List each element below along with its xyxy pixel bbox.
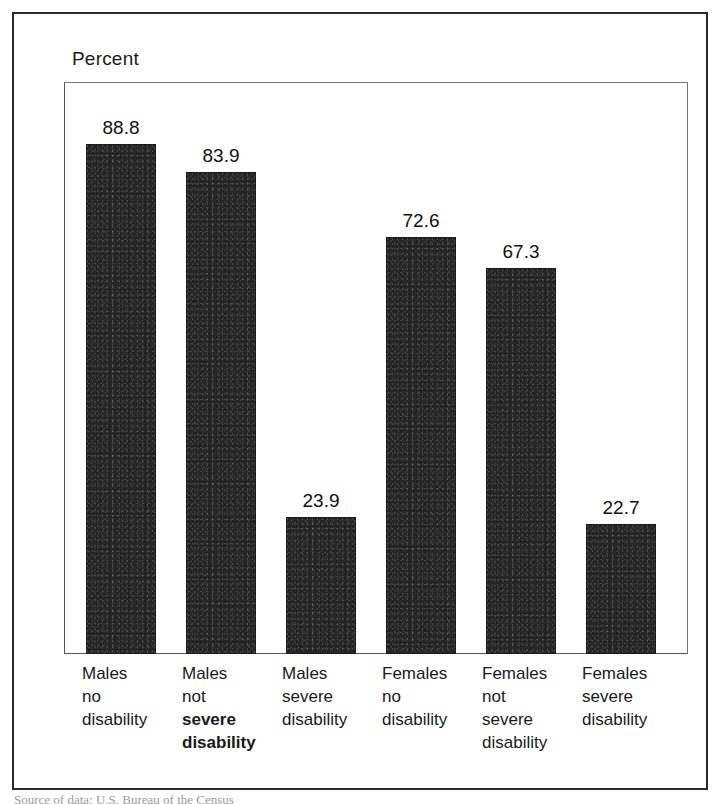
category-line: Males: [82, 662, 186, 685]
bar-rect[interactable]: [486, 268, 556, 654]
category-line: severe: [182, 708, 286, 731]
bar-group-males-no-disability[interactable]: 88.8: [86, 118, 156, 654]
category-line: disability: [582, 708, 686, 731]
category-line: Males: [182, 662, 286, 685]
category-line: Females: [582, 662, 686, 685]
category-line: disability: [482, 731, 586, 754]
bar-value-label: 67.3: [503, 242, 540, 261]
category-line: not: [482, 685, 586, 708]
x-axis-category-labels: Males no disability Males not severe dis…: [64, 662, 688, 772]
bar-rect[interactable]: [386, 237, 456, 654]
bar-rect[interactable]: [586, 524, 656, 654]
category-line: severe: [582, 685, 686, 708]
bar-group-males-not-severe-disability[interactable]: 83.9: [186, 146, 256, 654]
bar-value-label: 72.6: [403, 211, 440, 230]
bar-group-males-severe-disability[interactable]: 23.9: [286, 491, 356, 654]
figure-frame: Percent 88.8 83.9 23.9 72.6 67.3 22.7: [12, 12, 708, 790]
category-line: not: [182, 685, 286, 708]
bar-value-label: 88.8: [103, 118, 140, 137]
bar-group-females-not-severe-disability[interactable]: 67.3: [486, 242, 556, 654]
category-label-females-no-disability: Females no disability: [382, 662, 486, 731]
category-line: no: [382, 685, 486, 708]
category-line: disability: [82, 708, 186, 731]
category-line: Males: [282, 662, 386, 685]
source-caption: Source of data: U.S. Bureau of the Censu…: [14, 793, 704, 804]
category-label-females-not-severe-disability: Females not severe disability: [482, 662, 586, 754]
bar-group-females-severe-disability[interactable]: 22.7: [586, 498, 656, 654]
category-line: Females: [382, 662, 486, 685]
category-line: disability: [382, 708, 486, 731]
category-line: Females: [482, 662, 586, 685]
bar-value-label: 83.9: [203, 146, 240, 165]
bar-rect[interactable]: [86, 144, 156, 654]
category-line: severe: [482, 708, 586, 731]
category-line: severe: [282, 685, 386, 708]
bar-rect[interactable]: [186, 172, 256, 654]
category-line: no: [82, 685, 186, 708]
bar-value-label: 23.9: [303, 491, 340, 510]
category-label-females-severe-disability: Females severe disability: [582, 662, 686, 731]
category-label-males-not-severe-disability: Males not severe disability: [182, 662, 286, 754]
category-label-males-severe-disability: Males severe disability: [282, 662, 386, 731]
category-label-males-no-disability: Males no disability: [82, 662, 186, 731]
bar-group-females-no-disability[interactable]: 72.6: [386, 211, 456, 654]
bar-rect[interactable]: [286, 517, 356, 654]
category-line: disability: [182, 731, 286, 754]
bar-value-label: 22.7: [603, 498, 640, 517]
y-axis-title: Percent: [72, 48, 139, 70]
category-line: disability: [282, 708, 386, 731]
bars-layer: 88.8 83.9 23.9 72.6 67.3 22.7: [64, 82, 688, 654]
